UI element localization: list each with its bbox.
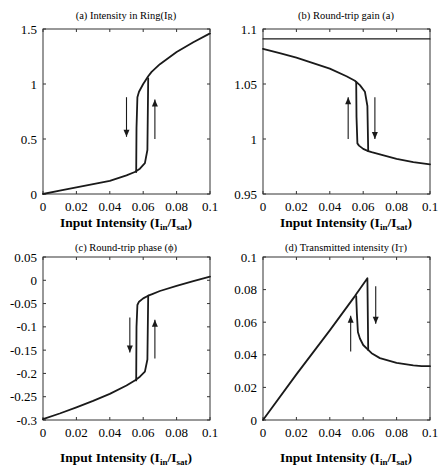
y-tick-label: 1.05 (234, 77, 257, 92)
arrowhead-up-icon (152, 99, 158, 106)
panel-b: (b) Round-trip gain (a) 00.020.040.060.0… (234, 10, 438, 214)
y-tick-label: 0.5 (21, 132, 37, 147)
arrowhead-down-icon (124, 130, 130, 137)
y-tick-label: -0.3 (16, 413, 37, 428)
x-tick-label: 0.1 (422, 199, 438, 214)
y-tick-label: 1 (31, 77, 38, 92)
x-tick-label: 0 (260, 425, 267, 440)
y-tick-label: 0 (31, 187, 38, 202)
y-tick-label: -0.1 (16, 319, 37, 334)
arrowhead-down-icon (373, 317, 379, 324)
panel-a-series-0 (43, 79, 148, 195)
x-tick-label: 0.04 (98, 199, 121, 214)
panel-a-title: (a) Intensity in Ring(IR) (76, 10, 177, 22)
y-tick-label: -0.15 (10, 343, 37, 358)
x-tick-label: 0.08 (385, 425, 408, 440)
y-tick-label: 1.5 (21, 22, 37, 37)
x-tick-label: 0.02 (285, 199, 308, 214)
panel-d-title: (d) Transmitted intensity (IT) (285, 242, 407, 254)
x-tick-label: 0.06 (132, 425, 155, 440)
x-tick-label: 0.1 (202, 199, 218, 214)
panel-a-xlabel: Input Intensity (Iin/Isat) (60, 215, 192, 232)
x-tick-label: 0.02 (65, 199, 88, 214)
y-tick-label: 0.06 (234, 315, 257, 330)
y-tick-label: -0.25 (10, 389, 37, 404)
y-tick-label: 0.08 (234, 282, 257, 297)
panel-b-axes-frame (263, 29, 430, 194)
panel-a: (a) Intensity in Ring(IR) 00.020.040.060… (21, 10, 218, 214)
x-tick-label: 0.06 (352, 199, 375, 214)
panel-d: (d) Transmitted intensity (IT) 00.020.04… (234, 242, 438, 440)
panel-c-title: (c) Round-trip phase (ϕ) (75, 242, 178, 254)
x-tick-label: 0.1 (202, 425, 218, 440)
y-tick-label: 0.95 (234, 187, 257, 202)
arrowhead-down-icon (127, 345, 133, 352)
y-tick-label: 0 (251, 413, 258, 428)
x-tick-label: 0 (260, 199, 267, 214)
x-tick-label: 0.04 (98, 425, 121, 440)
y-tick-label: 0 (31, 273, 38, 288)
x-tick-label: 0.04 (318, 199, 341, 214)
arrowhead-up-icon (152, 320, 158, 327)
panel-b-title: (b) Round-trip gain (a) (298, 10, 394, 22)
panel-d-xlabel: Input Intensity (Iin/Isat) (280, 450, 412, 467)
panel-d-series-0 (263, 278, 368, 420)
panel-c-axes-frame (43, 257, 210, 420)
arrowhead-down-icon (372, 132, 378, 139)
y-tick-label: -0.05 (10, 296, 37, 311)
x-tick-label: 0 (40, 199, 47, 214)
panel-b-xlabel: Input Intensity (Iin/Isat) (280, 215, 412, 232)
y-tick-label: -0.2 (16, 366, 37, 381)
x-tick-label: 0 (40, 425, 47, 440)
panel-c-xlabel: Input Intensity (Iin/Isat) (60, 450, 192, 467)
x-tick-label: 0.06 (352, 425, 375, 440)
y-tick-label: 0.05 (14, 250, 37, 265)
x-tick-label: 0.08 (165, 199, 188, 214)
x-tick-label: 0.02 (285, 425, 308, 440)
x-tick-label: 0.02 (65, 425, 88, 440)
figure-canvas: (a) Intensity in Ring(IR) 00.020.040.060… (0, 0, 444, 469)
arrowhead-up-icon (345, 97, 351, 104)
x-tick-label: 0.08 (165, 425, 188, 440)
y-tick-label: 1.1 (241, 22, 257, 37)
panel-b-series-1 (263, 49, 368, 151)
x-tick-label: 0.1 (422, 425, 438, 440)
arrowhead-up-icon (348, 316, 354, 323)
panel-c-series-0 (43, 296, 148, 419)
panel-d-axes-frame (263, 257, 430, 420)
x-tick-label: 0.04 (318, 425, 341, 440)
x-tick-label: 0.08 (385, 199, 408, 214)
x-tick-label: 0.06 (132, 199, 155, 214)
y-tick-label: 1 (251, 132, 258, 147)
y-tick-label: 0.02 (234, 380, 257, 395)
y-tick-label: 0.04 (234, 347, 257, 362)
y-tick-label: 0.1 (241, 250, 257, 265)
panel-c: (c) Round-trip phase (ϕ) 00.020.040.060.… (10, 242, 218, 440)
